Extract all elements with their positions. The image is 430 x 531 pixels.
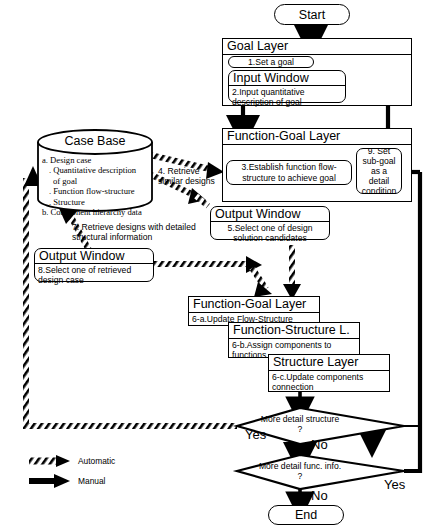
legend-automatic-icon [26, 454, 72, 468]
legend-automatic-label: Automatic [78, 456, 115, 466]
label-yes-func: Yes [384, 478, 405, 491]
step-6c-update-components-connection: 6-c.Update components connection [269, 371, 389, 393]
output-window-8-box: Output Window 8.Select one of retrieved … [34, 248, 154, 282]
flowchart-canvas: Start Goal Layer 1.Set a goal Input Wind… [0, 0, 430, 531]
output-window-5-header: Output Window [211, 207, 329, 222]
case-base-line-flow: . Function flow-structure [42, 186, 154, 196]
step-8-select-retrieved-case: 8.Select one of retrieved design case [35, 264, 153, 286]
input-window-box: Input Window 2.Input quantitative descri… [228, 70, 346, 103]
step-2-input-quantitative: 2.Input quantitative description of goal [229, 86, 345, 108]
case-base-line-b: b. Component hierarchy data [42, 207, 154, 217]
function-goal-layer-header: Function-Goal Layer [223, 129, 411, 145]
case-base-cylinder: Case Base a. Design case . Quantitative … [36, 126, 154, 212]
structure-layer-6c-header: Structure Layer [269, 355, 389, 371]
goal-layer-header: Goal Layer [223, 39, 411, 55]
automatic-edge-step3-to-ow5 [196, 196, 208, 206]
label-no-func: No [311, 489, 328, 502]
label-yes-structure: Yes [245, 428, 266, 441]
function-structure-layer-6b-header: Function-Structure L. [229, 323, 359, 339]
decision-more-detail-func-text: More detail func. info. ? [258, 461, 342, 481]
label-no-structure: No [311, 438, 328, 451]
step-3-establish-function-flow-structure: 3.Establish function flow-structure to a… [226, 160, 352, 185]
edge-label-retrieve-similar: 4. Retrieve similar designs [158, 166, 220, 186]
step-9-set-sub-goal: 9. Set sub-goal as a detail condition [356, 148, 402, 194]
case-base-lines: a. Design case . Quantitative descriptio… [42, 155, 154, 217]
case-base-line-quant: . Quantitative description [42, 165, 154, 175]
automatic-edge-ow8-to-6a [154, 256, 272, 297]
decision-more-detail-structure-text: More detail structure ? [258, 414, 342, 434]
output-window-8-header: Output Window [35, 249, 153, 264]
input-window-header: Input Window [229, 71, 345, 86]
case-base-title: Case Base [36, 134, 154, 148]
legend-manual-label: Manual [78, 476, 105, 486]
edge-label-retrieve-detailed: 7. Retrieve designs with detailed struct… [72, 222, 232, 242]
function-goal-layer-6a-header: Function-Goal Layer [189, 297, 319, 313]
legend-manual-icon [26, 474, 72, 488]
start-node: Start [274, 4, 350, 25]
case-base-line-a: a. Design case [42, 155, 154, 165]
step-1-set-a-goal: 1.Set a goal [228, 56, 314, 68]
function-structure-layer-6b-box: Function-Structure L. 6-b.Assign compone… [228, 322, 360, 358]
end-node: End [268, 505, 344, 525]
case-base-line-ofgoal: of goal [42, 176, 154, 186]
case-base-line-structure: . Structure [42, 197, 154, 207]
automatic-edge-ow5-to-6a [283, 245, 301, 300]
structure-layer-6c-box: Structure Layer 6-c.Update components co… [268, 354, 390, 392]
